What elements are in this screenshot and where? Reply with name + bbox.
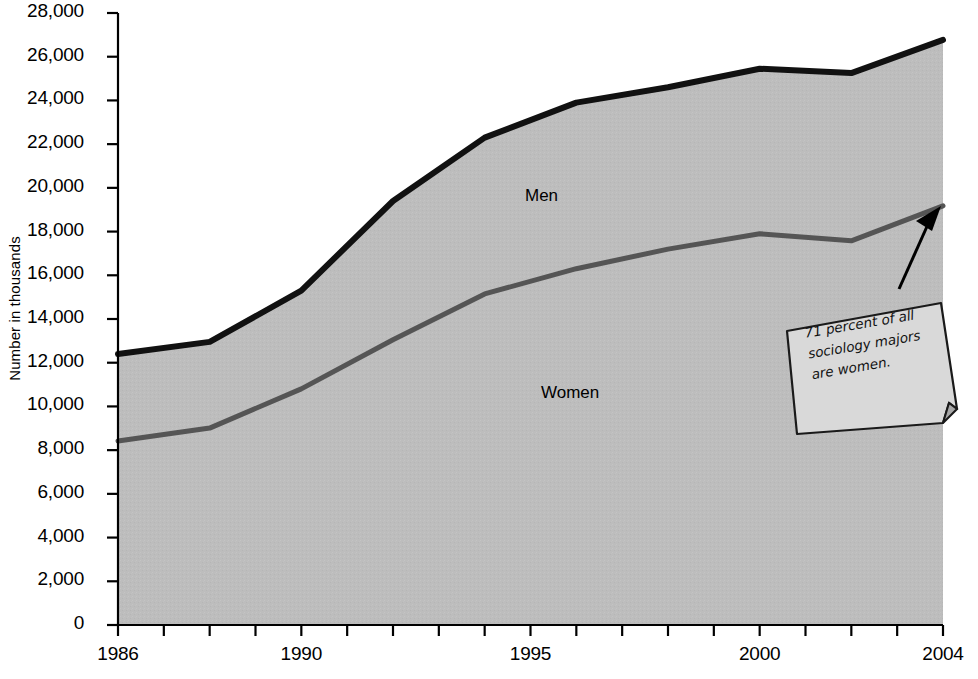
series-label-women: Women <box>541 383 599 403</box>
callout-note: 71 percent of all sociology majors are w… <box>781 297 971 442</box>
area-chart: Number in thousands 02,0004,0006,0008,00… <box>0 0 978 679</box>
series-label-men: Men <box>525 186 558 206</box>
x-axis-ticks <box>118 625 943 636</box>
y-axis-ticks <box>107 13 118 625</box>
